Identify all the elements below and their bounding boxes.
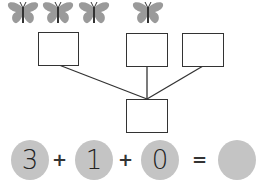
whole-box[interactable] — [126, 99, 168, 133]
part-box-1[interactable] — [38, 32, 79, 66]
term-circle-2: 1 — [75, 140, 113, 180]
plus-operator-1: + — [52, 149, 66, 170]
plus-operator-2: + — [118, 149, 132, 170]
part-box-3[interactable] — [182, 33, 224, 67]
result-circle[interactable] — [218, 140, 256, 180]
part-box-2[interactable] — [126, 33, 168, 67]
term-circle-3: 0 — [141, 140, 179, 180]
term-circle-1: 3 — [11, 140, 49, 180]
equals-operator: = — [192, 149, 206, 170]
